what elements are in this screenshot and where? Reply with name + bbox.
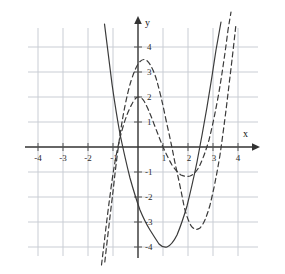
x-tick-label: 4 — [236, 153, 241, 163]
y-tick-label: 2 — [147, 92, 152, 102]
y-tick-label: 1 — [147, 117, 152, 127]
x-axis — [25, 143, 260, 151]
y-tick-label: 3 — [147, 67, 152, 77]
y-tick-label: -2 — [145, 192, 153, 202]
x-tick-label: -4 — [34, 153, 42, 163]
y-tick-label: -1 — [145, 167, 153, 177]
y-tick-label: -4 — [145, 242, 153, 252]
x-tick-label: -3 — [59, 153, 67, 163]
y-tick-label: -3 — [145, 217, 153, 227]
curves-group — [102, 12, 237, 265]
x-tick-label: -2 — [84, 153, 92, 163]
dashed-parabola-outer-curve — [105, 24, 236, 262]
graph-figure: -4 -3 -2 -1 1 2 3 4 4 3 2 1 -1 -2 -3 -4 … — [0, 0, 285, 274]
x-tick-label: 1 — [162, 153, 167, 163]
y-tick-label: 4 — [147, 42, 152, 52]
y-axis — [134, 16, 142, 258]
x-axis-title: x — [243, 128, 248, 139]
x-tick-label: 3 — [212, 153, 217, 163]
coordinate-plane-svg: -4 -3 -2 -1 1 2 3 4 4 3 2 1 -1 -2 -3 -4 … — [0, 0, 285, 274]
y-axis-title: y — [145, 17, 150, 28]
x-tick-label: 2 — [187, 153, 192, 163]
